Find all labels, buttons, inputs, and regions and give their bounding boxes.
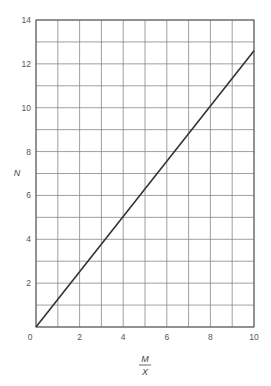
y-tick-label: 2 (26, 278, 31, 288)
x-axis-label-numerator: M (141, 354, 149, 364)
y-axis-ticks: 2468101214 (22, 15, 32, 288)
x-tick-label: 10 (249, 332, 259, 342)
x-tick-label: 2 (77, 332, 82, 342)
x-axis-label-denominator: X (141, 367, 149, 377)
y-axis-label: N (14, 168, 21, 178)
y-tick-label: 12 (22, 59, 32, 69)
x-tick-label: 8 (208, 332, 213, 342)
grid (36, 20, 254, 327)
x-tick-label: 6 (164, 332, 169, 342)
x-origin-label: 0 (28, 332, 33, 342)
chart: 246810 2468101214 0 N M X (0, 0, 271, 386)
y-tick-label: 4 (26, 234, 31, 244)
y-tick-label: 14 (22, 15, 32, 25)
y-tick-label: 6 (26, 190, 31, 200)
y-tick-label: 10 (22, 103, 32, 113)
x-axis-ticks: 246810 (77, 332, 259, 342)
x-tick-label: 4 (121, 332, 126, 342)
y-tick-label: 8 (26, 147, 31, 157)
